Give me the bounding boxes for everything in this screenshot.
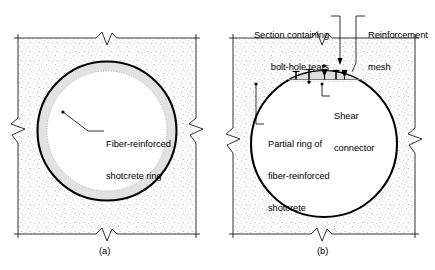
label-shear-connector: Shear connector xyxy=(334,90,374,175)
label-line: mesh xyxy=(368,62,428,73)
label-section-containing-bolt-hole-tears: Section containing bolt-hole tears xyxy=(223,9,329,94)
label-line: fiber-reinforced xyxy=(268,171,330,182)
label-line: connector xyxy=(334,143,374,154)
label-reinforcement-mesh: Reinforcement mesh xyxy=(368,9,428,94)
caption-panel-a: (a) xyxy=(99,246,110,256)
label-fiber-reinforced-shotcrete-ring: Fiber-reinforced shotcrete ring xyxy=(106,118,171,203)
caption-panel-b: (b) xyxy=(317,246,328,256)
label-line: shotcrete xyxy=(268,203,330,214)
label-line: Fiber-reinforced xyxy=(106,139,171,150)
label-line: shotcrete ring xyxy=(106,171,171,182)
label-partial-ring-of-fiber-reinforced-shotcrete: Partial ring of fiber-reinforced shotcre… xyxy=(268,118,330,235)
label-line: bolt-hole tears xyxy=(223,62,329,73)
label-line: Reinforcement xyxy=(368,30,428,41)
label-line: Partial ring of xyxy=(268,139,330,150)
label-line: Section containing xyxy=(223,30,329,41)
label-line: Shear xyxy=(334,111,374,122)
figure-root: Fiber-reinforced shotcrete ring (a) Sect… xyxy=(0,0,435,270)
